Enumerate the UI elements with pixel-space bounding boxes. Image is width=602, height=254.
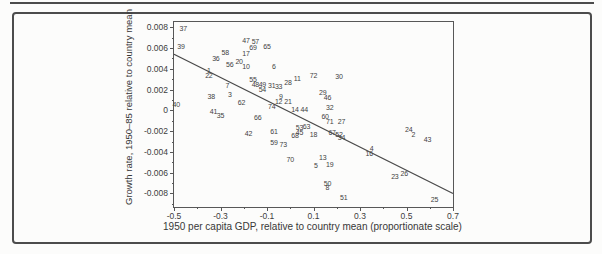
x-axis-title: 1950 per capita GDP, relative to country… bbox=[133, 221, 492, 232]
x-minor-tick bbox=[244, 207, 245, 209]
y-axis-title: Growth rate, 1950–85 relative to country… bbox=[123, 20, 134, 205]
x-minor-tick bbox=[197, 207, 198, 209]
y-tick-label: 0.002 bbox=[147, 85, 168, 94]
x-tick-label: -0.1 bbox=[260, 212, 275, 221]
figure-page: -0.5-0.3-0.10.10.30.50.70.0080.0060.0040… bbox=[0, 0, 602, 254]
y-tick-label: 0.004 bbox=[147, 64, 168, 73]
x-minor-tick bbox=[430, 207, 431, 209]
y-tick-label: 0.006 bbox=[147, 43, 168, 52]
y-tick-label: 0.008 bbox=[147, 23, 168, 32]
top-rule bbox=[10, 2, 594, 4]
x-minor-tick bbox=[337, 207, 338, 209]
x-tick-label: -0.5 bbox=[167, 212, 182, 221]
y-tick-label: -0.008 bbox=[144, 189, 168, 198]
x-tick-label: -0.3 bbox=[213, 212, 228, 221]
x-tick-label: 0.1 bbox=[308, 212, 320, 221]
x-tick-label: 0.5 bbox=[401, 212, 413, 221]
plot-area: -0.5-0.3-0.10.10.30.50.70.0080.0060.0040… bbox=[173, 21, 454, 208]
x-minor-tick bbox=[290, 207, 291, 209]
y-tick-label: -0.006 bbox=[144, 168, 168, 177]
x-tick-label: 0.3 bbox=[354, 212, 366, 221]
y-tick-label: -0.004 bbox=[144, 147, 168, 156]
y-tick-label: -0.002 bbox=[144, 127, 168, 136]
y-tick-label: 0 bbox=[163, 106, 168, 115]
x-minor-tick bbox=[383, 207, 384, 209]
x-tick-label: 0.7 bbox=[447, 212, 459, 221]
regression-line bbox=[174, 22, 453, 207]
